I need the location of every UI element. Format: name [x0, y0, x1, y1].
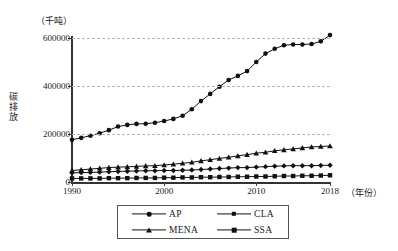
- y-tick-label: 400000: [43, 81, 70, 91]
- data-point: [272, 163, 277, 168]
- y-tick-label: 200000: [43, 129, 70, 139]
- data-point: [198, 167, 203, 172]
- data-point: [300, 42, 305, 47]
- data-point: [171, 175, 175, 179]
- data-point: [189, 107, 194, 112]
- data-point: [143, 121, 148, 126]
- data-point: [199, 99, 204, 104]
- data-point: [115, 169, 120, 174]
- data-point: [190, 175, 194, 179]
- data-point: [88, 176, 92, 180]
- data-point: [300, 163, 305, 168]
- data-point: [282, 174, 286, 178]
- data-point: [245, 69, 250, 74]
- data-point: [309, 174, 313, 178]
- data-point: [144, 176, 148, 180]
- data-point: [281, 163, 286, 168]
- data-point: [107, 176, 111, 180]
- legend-label: CLA: [254, 209, 274, 219]
- data-point: [236, 175, 240, 179]
- data-point: [217, 166, 222, 171]
- data-point: [116, 124, 121, 129]
- x-tick-label: 2000: [155, 186, 173, 196]
- data-point: [235, 165, 240, 170]
- data-point: [254, 60, 259, 65]
- triangle-marker-icon: [132, 225, 166, 235]
- data-point: [254, 164, 259, 169]
- data-point: [125, 123, 130, 128]
- data-point: [97, 176, 101, 180]
- data-point: [328, 33, 333, 38]
- data-point: [226, 165, 231, 170]
- data-point: [134, 176, 138, 180]
- series-ssa: [70, 173, 332, 181]
- legend-item-ssa[interactable]: SSA: [203, 225, 288, 235]
- chart-root: （千吨） 碳排放 0200000400000600000 19902000201…: [0, 0, 398, 251]
- legend-label: SSA: [254, 225, 272, 235]
- data-point: [189, 167, 194, 172]
- data-point: [134, 168, 139, 173]
- series-ap: [70, 33, 333, 142]
- data-point: [244, 165, 249, 170]
- data-point: [226, 175, 230, 179]
- data-point: [70, 137, 75, 142]
- gridline: [72, 38, 330, 39]
- data-point: [327, 163, 332, 168]
- data-point: [328, 173, 332, 177]
- x-tick-label: 2018: [321, 186, 339, 196]
- y-tick-mark: [68, 182, 73, 183]
- data-point: [153, 176, 157, 180]
- data-point: [318, 39, 323, 44]
- data-point: [143, 168, 148, 173]
- data-point: [161, 168, 166, 173]
- data-point: [208, 92, 213, 97]
- y-tick-label: 600000: [43, 33, 70, 43]
- data-point: [245, 175, 249, 179]
- diamond-marker-icon: [217, 209, 251, 219]
- data-point: [318, 163, 323, 168]
- data-point: [282, 43, 287, 48]
- data-point: [199, 175, 203, 179]
- legend-item-cla[interactable]: CLA: [203, 209, 288, 219]
- series-line: [72, 35, 330, 140]
- legend-item-ap[interactable]: AP: [118, 209, 203, 219]
- data-point: [291, 174, 295, 178]
- data-point: [125, 169, 130, 174]
- data-point: [162, 119, 167, 124]
- data-point: [152, 168, 157, 173]
- data-point: [153, 120, 158, 125]
- data-point: [300, 174, 304, 178]
- x-axis-line: [71, 182, 331, 184]
- data-point: [217, 175, 221, 179]
- data-point: [236, 74, 241, 79]
- data-point: [162, 175, 166, 179]
- legend: APCLAMENASSA: [117, 205, 289, 239]
- data-point: [134, 122, 139, 127]
- data-point: [171, 117, 176, 122]
- gridline: [72, 134, 330, 135]
- data-point: [263, 174, 267, 178]
- series-layer: [72, 38, 330, 182]
- data-point: [79, 176, 83, 180]
- legend-item-mena[interactable]: MENA: [118, 225, 203, 235]
- x-tick-label: 1990: [63, 186, 81, 196]
- circle-marker-icon: [132, 209, 166, 219]
- legend-label: AP: [169, 209, 182, 219]
- legend-label: MENA: [169, 225, 198, 235]
- data-point: [79, 136, 84, 141]
- data-point: [290, 163, 295, 168]
- data-point: [208, 166, 213, 171]
- data-point: [180, 175, 184, 179]
- data-point: [254, 174, 258, 178]
- data-point: [70, 176, 74, 180]
- data-point: [107, 128, 112, 133]
- data-point: [263, 51, 268, 56]
- y-axis-ticks: 0200000400000600000: [0, 0, 70, 251]
- data-point: [180, 168, 185, 173]
- data-point: [226, 78, 231, 83]
- data-point: [273, 174, 277, 178]
- gridline: [72, 86, 330, 87]
- data-point: [208, 175, 212, 179]
- data-point: [309, 42, 314, 47]
- data-point: [125, 176, 129, 180]
